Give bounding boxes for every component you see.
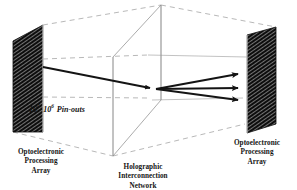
- left-optoelectronic-array-plane: [13, 25, 43, 132]
- left-array-caption-line1: Optoelectronic: [2, 148, 80, 157]
- input-beam: [43, 67, 150, 88]
- wireframe-solid: [113, 5, 247, 156]
- output-beam-1: [156, 74, 238, 89]
- output-beams: [156, 74, 238, 100]
- optical-interconnect-diagram: 104-106Pin-outs Optoelectronic Processin…: [0, 0, 297, 190]
- right-array-caption: Optoelectronic Processing Array: [217, 139, 297, 167]
- holographic-network-caption-line1: Holographic: [102, 163, 184, 172]
- holographic-network-caption-line2: Interconnection: [102, 172, 184, 181]
- pin-outs-base-low: 10: [29, 105, 37, 114]
- left-array-caption-line3: Array: [2, 167, 80, 176]
- left-array-caption: Optoelectronic Processing Array: [2, 148, 80, 176]
- holographic-network-caption-line3: Network: [102, 182, 184, 190]
- output-beam-3: [156, 89, 238, 100]
- pin-outs-annotation: 104-106Pin-outs: [29, 105, 85, 114]
- right-array-caption-line2: Processing: [217, 148, 297, 157]
- wireframe-dashed: [13, 5, 276, 156]
- output-beam-2: [156, 88, 238, 89]
- right-array-caption-line1: Optoelectronic: [217, 139, 297, 148]
- right-array-caption-line3: Array: [217, 158, 297, 167]
- holographic-interconnection-plane: [113, 5, 161, 156]
- holographic-network-caption: Holographic Interconnection Network: [102, 163, 184, 190]
- right-optoelectronic-array-plane: [247, 27, 276, 133]
- pin-outs-units: Pin-outs: [54, 105, 85, 114]
- left-array-caption-line2: Processing: [2, 157, 80, 166]
